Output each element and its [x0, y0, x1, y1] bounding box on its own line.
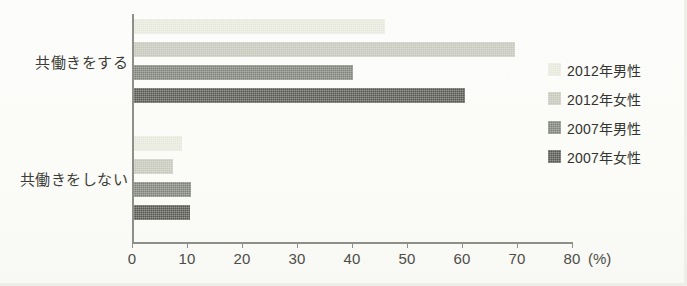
legend-label: 2007年女性	[567, 147, 642, 167]
bar	[134, 205, 190, 220]
category-label: 共働きをしない	[0, 168, 128, 189]
legend-item: 2007年女性	[548, 142, 683, 171]
plot-area: 01020304050607080	[132, 14, 572, 242]
x-axis-tick	[517, 242, 518, 248]
bar-texture	[134, 182, 191, 197]
bar-chart-figure: 共働きをする共働きをしない 01020304050607080 (%) 2012…	[0, 0, 687, 286]
bar	[134, 136, 182, 151]
x-axis-tick-label: 80	[563, 250, 580, 267]
legend-label: 2012年女性	[567, 89, 642, 109]
legend-label: 2007年男性	[567, 118, 642, 138]
x-axis-tick	[407, 242, 408, 248]
bar	[134, 182, 191, 197]
legend-swatch-texture	[548, 150, 561, 163]
bar	[134, 65, 353, 80]
legend-swatch-icon	[548, 150, 561, 163]
x-axis-tick-label: 60	[453, 250, 470, 267]
x-axis-tick-label: 70	[508, 250, 525, 267]
category-label: 共働きをする	[0, 51, 128, 72]
x-axis-tick	[242, 242, 243, 248]
x-axis-tick-label: 40	[343, 250, 360, 267]
x-axis-tick	[297, 242, 298, 248]
legend-swatch-texture	[548, 63, 561, 76]
x-axis-tick-label: 0	[128, 250, 137, 267]
chart-legend: 2012年男性2012年女性2007年男性2007年女性	[548, 55, 683, 171]
x-axis-tick-label: 50	[398, 250, 415, 267]
legend-swatch-texture	[548, 92, 561, 105]
bar	[134, 42, 515, 57]
legend-item: 2012年女性	[548, 84, 683, 113]
legend-swatch-icon	[548, 92, 561, 105]
bar-texture	[134, 88, 465, 103]
x-axis-tick	[132, 242, 133, 248]
bar-texture	[134, 65, 353, 80]
legend-item: 2007年男性	[548, 113, 683, 142]
x-axis-tick	[187, 242, 188, 248]
x-axis-tick	[352, 242, 353, 248]
x-axis-tick	[572, 242, 573, 248]
x-axis-tick-label: 20	[233, 250, 250, 267]
bar-texture	[134, 19, 385, 34]
legend-item: 2012年男性	[548, 55, 683, 84]
bar-texture	[134, 136, 182, 151]
x-axis-tick-label: 10	[178, 250, 195, 267]
x-axis-tick-label: 30	[288, 250, 305, 267]
bar-texture	[134, 42, 515, 57]
legend-swatch-texture	[548, 121, 561, 134]
x-axis-unit-label: (%)	[588, 250, 611, 267]
bar-texture	[134, 159, 173, 174]
bar	[134, 88, 465, 103]
legend-swatch-icon	[548, 121, 561, 134]
bar	[134, 159, 173, 174]
x-axis-tick	[462, 242, 463, 248]
legend-swatch-icon	[548, 63, 561, 76]
bar	[134, 19, 385, 34]
bar-texture	[134, 205, 190, 220]
legend-label: 2012年男性	[567, 60, 642, 80]
